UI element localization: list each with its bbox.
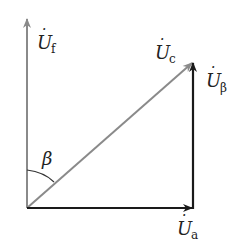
label-ubeta-dot: · — [211, 59, 215, 75]
vector-uc — [27, 63, 192, 208]
label-uc-dot: · — [160, 31, 164, 47]
phasor-diagram: U · f U · c U · β U · a β — [0, 0, 245, 247]
label-uc: U · c — [155, 31, 176, 66]
label-uc-sub: c — [169, 52, 176, 66]
label-uf-sub: f — [51, 42, 57, 56]
label-uf-dot: · — [42, 21, 46, 37]
label-ubeta-sub: β — [220, 81, 227, 95]
label-ua: U · a — [177, 207, 198, 242]
angle-arc-beta — [27, 170, 54, 182]
label-ubeta: U · β — [206, 59, 227, 95]
label-angle-beta: β — [41, 148, 52, 169]
label-uf: U · f — [37, 21, 57, 56]
label-ua-sub: a — [191, 228, 198, 242]
label-ua-dot: · — [182, 207, 186, 223]
